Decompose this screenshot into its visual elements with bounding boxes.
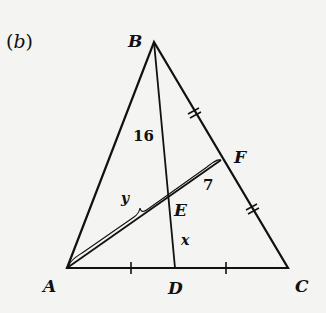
value-ef: 7: [203, 176, 213, 194]
value-be: 16: [133, 127, 154, 145]
triangle-abc: [67, 42, 288, 268]
label-e: E: [173, 200, 188, 220]
figure-tag: (b): [6, 30, 33, 52]
triangle-diagram: (b) B A D C F E 16 7 x y: [0, 0, 326, 313]
label-c: C: [295, 276, 309, 296]
segment-af: [67, 160, 221, 268]
label-f: F: [233, 147, 248, 167]
label-a: A: [41, 276, 56, 296]
value-ae: y: [120, 190, 130, 206]
label-d: D: [167, 278, 183, 298]
segment-bd: [154, 42, 175, 268]
value-ed: x: [180, 232, 190, 248]
label-b: B: [127, 31, 142, 51]
